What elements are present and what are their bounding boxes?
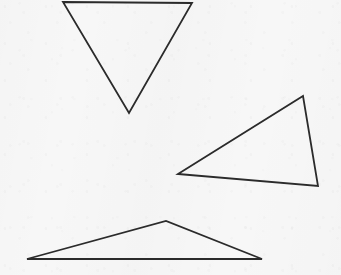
drawing-canvas <box>0 0 341 275</box>
triangles-figure <box>0 0 341 275</box>
inverted-triangle <box>63 2 192 113</box>
tilted-right-triangle <box>178 96 318 186</box>
flat-obtuse-triangle <box>27 221 262 259</box>
